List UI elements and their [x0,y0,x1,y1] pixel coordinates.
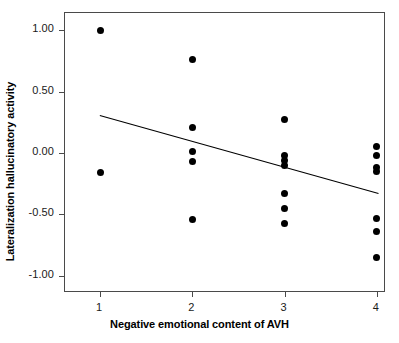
data-point [281,190,288,197]
x-tick-label: 4 [364,301,388,313]
data-point [189,56,196,63]
y-axis-title: Lateralization hallucinatory activity [2,0,18,343]
x-tick-mark [192,291,193,297]
y-tick-mark [59,30,65,31]
x-tick-mark [377,291,378,297]
data-point [189,148,196,155]
y-tick-label: 0.00 [4,145,54,157]
x-tick-mark [100,291,101,297]
y-axis-title-container: Lateralization hallucinatory activity [2,0,18,343]
y-tick-mark [59,92,65,93]
data-point [189,216,196,223]
data-point [373,215,380,222]
plot-area [65,13,384,291]
y-tick-label: 0.50 [4,84,54,96]
scatter-plot-figure: Lateralization hallucinatory activity 1.… [0,0,399,343]
data-point [97,169,104,176]
y-tick-label: 1.00 [4,22,54,34]
y-tick-label: -0.50 [4,206,54,218]
data-point [281,220,288,227]
y-tick-mark [59,276,65,277]
x-tick-label: 1 [87,301,111,313]
x-tick-label: 2 [179,301,203,313]
regression-line [65,13,384,291]
data-point [281,205,288,212]
x-tick-mark [285,291,286,297]
y-tick-mark [59,153,65,154]
y-tick-label: -1.00 [4,268,54,280]
x-axis-title: Negative emotional content of AVH [0,318,399,330]
data-point [97,27,104,34]
x-tick-label: 3 [272,301,296,313]
data-point [189,124,196,131]
y-tick-mark [59,214,65,215]
plot-panel [64,12,385,292]
data-point [281,162,288,169]
data-point [189,158,196,165]
